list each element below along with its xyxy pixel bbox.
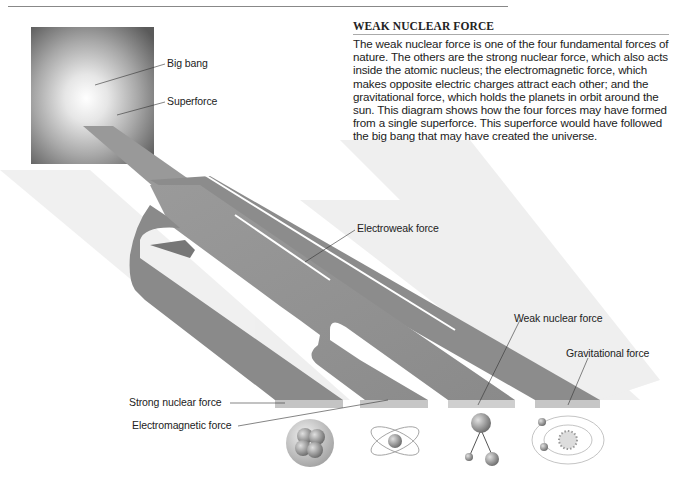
label-gravitational: Gravitational force <box>566 347 649 359</box>
label-strong-nuclear: Strong nuclear force <box>129 396 222 408</box>
panel-body: The weak nuclear force is one of the fou… <box>353 37 673 143</box>
label-big-bang: Big bang <box>167 57 208 69</box>
label-weak-nuclear: Weak nuclear force <box>514 312 602 324</box>
particle-decay-icon <box>465 413 499 466</box>
label-electromagnetic: Electromagnetic force <box>132 419 231 431</box>
solar-system-icon <box>532 416 604 464</box>
title-rule <box>353 34 669 35</box>
nucleus-icon <box>286 419 334 467</box>
label-superforce: Superforce <box>167 95 217 107</box>
label-electroweak: Electroweak force <box>357 222 439 234</box>
atom-icon <box>367 421 423 461</box>
panel-title: WEAK NUCLEAR FORCE <box>353 20 494 32</box>
